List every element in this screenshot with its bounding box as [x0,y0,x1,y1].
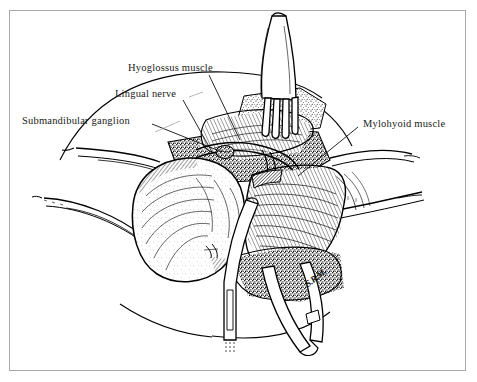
label-hyoglossus-muscle: Hyoglossus muscle [128,62,213,73]
figure-container: Hyoglossus muscle Lingual nerve Submandi… [0,0,477,382]
label-lingual-nerve: Lingual nerve [115,88,176,99]
label-mylohyoid-muscle: Mylohyoid muscle [363,118,445,129]
lower-deep-tissue [228,242,348,306]
anatomical-illustration [0,0,477,382]
submandibular-ganglion [216,146,234,159]
rake-retractor [261,13,298,138]
label-submandibular-ganglion: Submandibular ganglion [22,115,130,126]
